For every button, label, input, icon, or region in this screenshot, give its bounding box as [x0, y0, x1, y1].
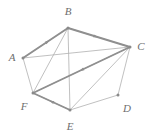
vertex-label-f: F	[21, 101, 28, 112]
vertex-label-b: B	[65, 6, 72, 17]
graph-diagram: ABCDEF	[0, 0, 149, 140]
vertex-dot-a	[22, 57, 25, 60]
thin-edge-layer	[23, 28, 130, 110]
vertex-label-a: A	[9, 52, 16, 63]
directed-edge-b-c-arrowhead-icon	[93, 34, 98, 37]
edge-b-f	[33, 28, 68, 93]
vertex-dot-e	[69, 109, 72, 112]
vertex-label-e: E	[67, 121, 74, 132]
vertex-dot-c	[129, 46, 132, 49]
edge-a-c	[23, 47, 130, 58]
vertex-dot-d	[117, 94, 120, 97]
directed-edge-a-b	[23, 28, 68, 58]
vertex-label-d: D	[123, 103, 131, 114]
edge-c-d	[118, 47, 130, 95]
thick-edge-layer	[23, 28, 130, 110]
vertex-label-c: C	[137, 41, 144, 52]
arrowhead-layer	[45, 34, 98, 104]
edge-b-e	[68, 28, 70, 110]
edge-a-f	[23, 58, 33, 93]
vertex-dot-f	[32, 92, 35, 95]
vertex-dot-b	[67, 27, 70, 30]
graph-canvas	[0, 0, 149, 140]
vertex-dot-layer	[22, 27, 132, 112]
directed-edge-b-c	[68, 28, 130, 47]
